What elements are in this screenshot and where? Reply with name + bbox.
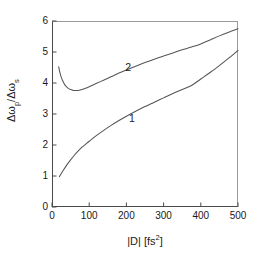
y-tick-label: 2 bbox=[34, 140, 48, 150]
x-axis-tick-labels: 0100200300400500 bbox=[0, 210, 262, 224]
y-tick-label: 5 bbox=[34, 47, 48, 57]
curve-label-2: 2 bbox=[125, 62, 131, 73]
y-axis-title: Δωp/Δωs bbox=[5, 51, 22, 151]
x-axis-title: |D| [fs2] bbox=[52, 232, 238, 247]
y-tick-label: 6 bbox=[34, 16, 48, 26]
y-tick-label: 4 bbox=[34, 78, 48, 88]
curve-label-1: 1 bbox=[129, 113, 135, 124]
x-tick-label: 500 bbox=[223, 210, 253, 221]
chart-figure: 0123456 0100200300400500 12 Δωp/Δωs |D| … bbox=[0, 0, 262, 265]
x-axis-title-text: |D| [fs2] bbox=[127, 235, 163, 247]
y-axis-tick-labels: 0123456 bbox=[30, 0, 48, 265]
y-tick-label: 3 bbox=[34, 109, 48, 119]
x-tick-label: 0 bbox=[37, 210, 67, 221]
x-tick-label: 200 bbox=[111, 210, 141, 221]
y-axis-title-text: Δωp/Δωs bbox=[5, 79, 17, 122]
y-tick-label: 1 bbox=[34, 171, 48, 181]
plot-area bbox=[52, 21, 238, 207]
x-tick-label: 300 bbox=[149, 210, 179, 221]
x-tick-label: 400 bbox=[186, 210, 216, 221]
x-tick-label: 100 bbox=[74, 210, 104, 221]
